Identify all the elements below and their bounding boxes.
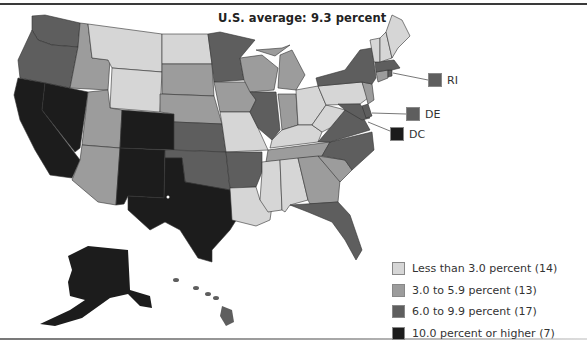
dc-marker xyxy=(167,196,170,199)
callout-de: DE xyxy=(406,107,440,121)
legend-item-darkest: 10.0 percent or higher (7) xyxy=(392,323,557,341)
callout-de-swatch xyxy=(406,107,420,121)
callout-dc-swatch xyxy=(390,127,404,141)
ri-leader xyxy=(393,73,428,80)
state-fl xyxy=(290,202,362,260)
legend-item-dark: 6.0 to 9.9 percent (17) xyxy=(392,301,557,323)
callout-ri-swatch xyxy=(428,73,442,87)
legend-item-light: Less than 3.0 percent (14) xyxy=(392,258,557,280)
callout-de-label: DE xyxy=(425,108,440,121)
state-in xyxy=(278,94,298,130)
callout-ri: RI xyxy=(428,73,458,87)
callout-dc-label: DC xyxy=(409,128,425,141)
legend-swatch-darkest xyxy=(392,327,405,340)
legend-swatch-dark xyxy=(392,305,405,318)
state-ny xyxy=(316,48,376,86)
state-nd xyxy=(162,34,212,64)
legend-swatch-medium xyxy=(392,284,405,297)
de-leader xyxy=(372,113,406,114)
legend-label-dark: 6.0 to 9.9 percent (17) xyxy=(412,305,537,318)
state-ri xyxy=(388,70,392,77)
state-ks xyxy=(174,122,226,152)
state-sd xyxy=(162,64,214,96)
callout-ri-label: RI xyxy=(447,74,458,87)
state-wy xyxy=(110,68,162,112)
state-ms xyxy=(260,160,282,212)
callout-dc: DC xyxy=(390,127,425,141)
state-ak xyxy=(40,246,152,326)
legend: Less than 3.0 percent (14) 3.0 to 5.9 pe… xyxy=(392,258,557,341)
legend-swatch-light xyxy=(392,262,405,275)
legend-label-medium: 3.0 to 5.9 percent (13) xyxy=(412,284,537,297)
state-az xyxy=(72,145,120,205)
state-co xyxy=(120,110,174,150)
state-ar xyxy=(226,152,262,188)
dc-leader xyxy=(368,122,390,131)
legend-item-medium: 3.0 to 5.9 percent (13) xyxy=(392,280,557,302)
legend-label-light: Less than 3.0 percent (14) xyxy=(412,262,557,275)
legend-label-darkest: 10.0 percent or higher (7) xyxy=(412,327,555,340)
state-hi xyxy=(173,278,234,326)
